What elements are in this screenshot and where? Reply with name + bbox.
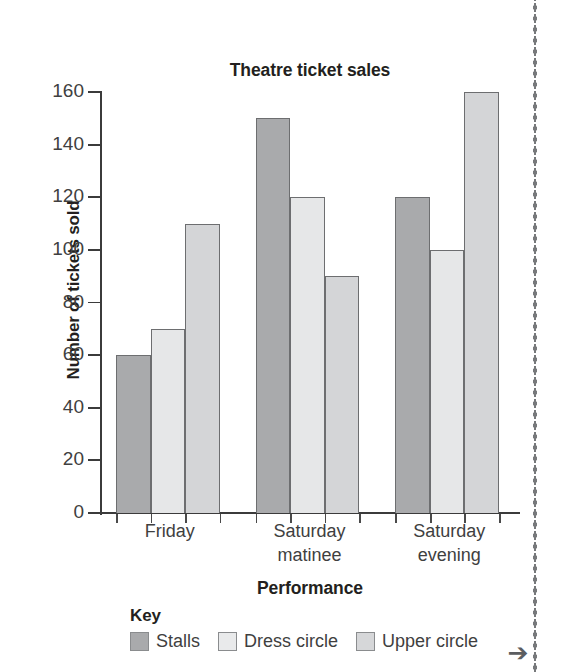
x-axis-title: Performance (100, 578, 520, 599)
x-axis-category-label: Saturdayevening (379, 519, 519, 567)
y-axis-tick (88, 407, 100, 409)
y-axis-tick-label: 120 (22, 185, 84, 207)
legend-item-label: Upper circle (382, 631, 478, 652)
y-axis-tick-label: 80 (22, 291, 84, 313)
legend-swatch (218, 632, 237, 651)
y-axis-tick-label: 20 (22, 448, 84, 470)
y-axis-tick-label: 160 (22, 80, 84, 102)
y-axis-tick (88, 249, 100, 251)
legend-items: StallsDress circleUpper circle (130, 631, 530, 652)
bar (185, 224, 220, 513)
legend-item: Upper circle (356, 631, 478, 652)
x-axis-category-label-line: Saturday (240, 519, 380, 543)
chart-legend: Key StallsDress circleUpper circle (130, 606, 530, 652)
bar (430, 250, 465, 513)
bar (116, 355, 151, 513)
y-axis-tick (88, 144, 100, 146)
continue-arrow-icon: ➔ (505, 642, 531, 664)
y-axis-tick (88, 512, 100, 514)
y-axis-tick-label: 0 (22, 501, 84, 523)
x-axis-category-label: Friday (100, 519, 240, 543)
y-axis-tick (88, 302, 100, 304)
bar (290, 197, 325, 513)
plot-area (100, 92, 519, 513)
bar (256, 118, 291, 513)
legend-item: Stalls (130, 631, 200, 652)
page-edge-dotted-rule (533, 0, 537, 672)
bar (325, 276, 360, 513)
x-axis-category-label: Saturdaymatinee (240, 519, 380, 567)
legend-swatch (356, 632, 375, 651)
bar (464, 92, 499, 513)
legend-title: Key (130, 606, 530, 626)
legend-item-label: Dress circle (244, 631, 338, 652)
y-axis-tick-label: 140 (22, 133, 84, 155)
legend-swatch (130, 632, 149, 651)
y-axis-tick (88, 91, 100, 93)
legend-item: Dress circle (218, 631, 338, 652)
bar (395, 197, 430, 513)
chart-title: Theatre ticket sales (100, 60, 520, 81)
y-axis-tick (88, 459, 100, 461)
x-axis-category-label-line: matinee (240, 543, 380, 567)
y-axis-tick (88, 196, 100, 198)
y-axis-tick-label: 100 (22, 238, 84, 260)
y-axis-tick (88, 354, 100, 356)
bar (151, 329, 186, 513)
legend-item-label: Stalls (156, 631, 200, 652)
x-axis-category-label-line: Saturday (379, 519, 519, 543)
bar-chart-figure: Theatre ticket sales Number of tickets s… (0, 0, 533, 600)
x-axis-category-label-line: evening (379, 543, 519, 567)
y-axis-tick-label: 60 (22, 343, 84, 365)
x-axis-category-label-line: Friday (100, 519, 240, 543)
y-axis-tick-label: 40 (22, 396, 84, 418)
